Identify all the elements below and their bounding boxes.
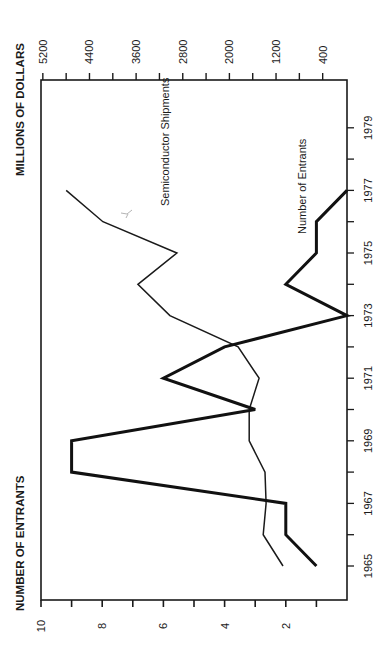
right-axis-title: MILLIONS OF DOLLARS [14, 43, 26, 176]
dollars-tick-label: 5200 [37, 40, 49, 64]
year-tick-label: 1973 [362, 303, 374, 327]
entrants-axis-ticks: 246810 [35, 600, 316, 632]
year-axis-ticks: 19651967196919711973197519771979 [347, 116, 374, 579]
dollars-tick-label: 400 [317, 46, 329, 64]
dollars-tick-label: 3600 [130, 40, 142, 64]
pencil-mark [121, 210, 132, 218]
dollars-tick-label: 4400 [83, 40, 95, 64]
dollars-tick-label: 2800 [177, 40, 189, 64]
shipments-series-label: Semiconductor Shipments [159, 77, 171, 206]
entrants-tick-label: 4 [219, 623, 231, 629]
dollars-axis-ticks: 400120020002800360044005200 [37, 40, 329, 80]
entrants-tick-label: 2 [280, 623, 292, 629]
entrants-tick-label: 8 [96, 623, 108, 629]
year-tick-label: 1971 [362, 366, 374, 390]
shipments-line [66, 190, 283, 566]
entrants-series-label: Number of Entrants [296, 138, 308, 234]
dollars-tick-label: 1200 [270, 40, 282, 64]
year-tick-label: 1979 [362, 116, 374, 140]
chart: 246810 400120020002800360044005200 19651… [0, 0, 386, 665]
year-tick-label: 1977 [362, 178, 374, 202]
entrants-tick-label: 10 [35, 620, 47, 632]
year-tick-label: 1975 [362, 241, 374, 265]
entrants-line [72, 190, 347, 566]
year-tick-label: 1967 [362, 491, 374, 515]
entrants-tick-label: 6 [157, 623, 169, 629]
year-tick-label: 1969 [362, 429, 374, 453]
dollars-tick-label: 2000 [223, 40, 235, 64]
year-tick-label: 1965 [362, 554, 374, 578]
left-axis-title: NUMBER OF ENTRANTS [14, 475, 26, 611]
